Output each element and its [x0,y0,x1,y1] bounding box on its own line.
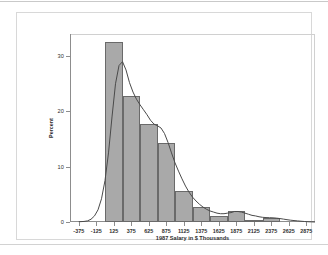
y-axis-tick [66,111,70,112]
top-divider [0,1,328,2]
x-axis-tick [236,222,237,226]
x-axis-tick-label: 625 [144,228,153,234]
screenshot-canvas: 0102030 -375-125125375625875112513751625… [0,0,328,255]
y-axis-tick [66,222,70,223]
x-axis-tick [201,222,202,226]
x-axis-tick-label: 1375 [195,228,207,234]
x-axis-tick-label: 2125 [248,228,260,234]
y-axis-tick-label: 0 [61,219,64,225]
x-axis-tick [96,222,97,226]
y-axis-title: Percent [48,118,54,138]
x-axis-tick-label: -125 [91,228,102,234]
x-axis-title: 1987 Salary in $ Thousands [70,235,315,241]
x-axis-tick-label: 375 [127,228,136,234]
x-axis-tick [149,222,150,226]
y-axis-tick-label: 20 [57,108,64,114]
y-axis-tick-label: 10 [57,164,64,170]
y-axis-tick [66,56,70,57]
x-axis-tick [184,222,185,226]
x-axis-tick [254,222,255,226]
x-axis-tick [166,222,167,226]
y-axis-tick-label: 30 [57,53,64,59]
x-axis-tick [114,222,115,226]
x-axis-tick [131,222,132,226]
density-curve-path [79,62,315,222]
x-axis-tick [271,222,272,226]
y-axis-tick [66,167,70,168]
x-axis-tick-label: 1625 [213,228,225,234]
x-axis-tick-label: 2875 [300,228,312,234]
x-axis-tick [79,222,80,226]
x-axis-tick-label: 125 [109,228,118,234]
figure-frame: 0102030 -375-125125375625875112513751625… [16,12,312,240]
histogram-plot-area: 0102030 -375-125125375625875112513751625… [70,34,315,222]
bottom-divider [0,244,328,245]
x-axis-tick-label: 2375 [265,228,277,234]
x-axis-tick-label: 875 [162,228,171,234]
x-axis-tick-label: 1125 [178,228,190,234]
x-axis-tick-label: 2625 [283,228,295,234]
x-axis-tick [306,222,307,226]
density-curve [70,34,315,222]
x-axis-tick-label: 1875 [230,228,242,234]
x-axis-tick [289,222,290,226]
x-axis-tick [219,222,220,226]
x-axis-tick-label: -375 [73,228,84,234]
